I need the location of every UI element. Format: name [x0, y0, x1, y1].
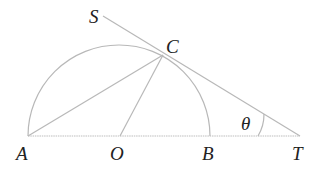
- semicircle-arc: [28, 45, 210, 136]
- segment-oc: [120, 55, 163, 136]
- segment-ac: [28, 55, 163, 136]
- angle-theta-arc: [258, 114, 264, 136]
- label-s: S: [89, 6, 99, 27]
- tangent-st: [103, 16, 300, 136]
- label-b: B: [202, 143, 214, 164]
- label-theta: θ: [241, 113, 250, 134]
- label-c: C: [166, 36, 179, 57]
- label-t: T: [292, 143, 304, 164]
- geometry-diagram: S C A O B T θ: [0, 0, 333, 172]
- label-o: O: [110, 143, 124, 164]
- label-a: A: [14, 143, 28, 164]
